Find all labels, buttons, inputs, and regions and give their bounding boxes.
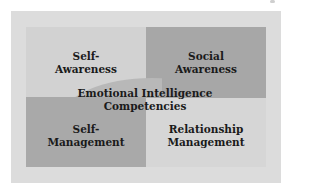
center-label-line2: Competencies (60, 100, 230, 113)
label-self-awareness: Self- Awareness (36, 50, 136, 75)
label-line2: Management (156, 136, 256, 149)
label-relationship-management: Relationship Management (156, 123, 256, 148)
center-label: Emotional Intelligence Competencies (60, 87, 230, 112)
label-line1: Social (156, 50, 256, 63)
label-line1: Self- (36, 123, 136, 136)
corner-mark (270, 0, 275, 3)
label-line1: Relationship (156, 123, 256, 136)
label-line2: Management (36, 136, 136, 149)
label-line2: Awareness (36, 63, 136, 76)
label-social-awareness: Social Awareness (156, 50, 256, 75)
label-line2: Awareness (156, 63, 256, 76)
center-label-line1: Emotional Intelligence (60, 87, 230, 100)
label-line1: Self- (36, 50, 136, 63)
label-self-management: Self- Management (36, 123, 136, 148)
